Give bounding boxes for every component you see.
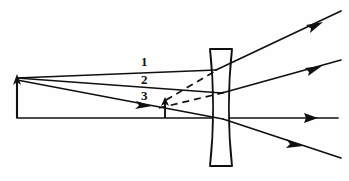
ray-label-3: 3 [141,89,148,102]
ray-1-refracted-segment [216,11,341,70]
ray-1-incident-segment [17,70,216,78]
ray-1-group [17,11,341,78]
ray-diagram-figure: 1 2 3 [0,0,349,181]
ray-label-2: 2 [141,73,148,86]
ray-label-1: 1 [141,55,148,68]
ray-diagram-canvas [0,0,349,181]
ray-2-refracted-segment [222,60,341,93]
optical-axis-arrowhead [304,113,318,123]
ray-1-arrowhead [306,22,323,33]
ray-3-refracted-segment [223,119,341,158]
diverging-lens-outline [210,49,232,166]
ray-3-end-arrowhead [286,139,303,148]
optical-axis-group [17,113,338,123]
ray-2-arrowhead [305,66,322,76]
diverging-lens-group [210,49,232,166]
